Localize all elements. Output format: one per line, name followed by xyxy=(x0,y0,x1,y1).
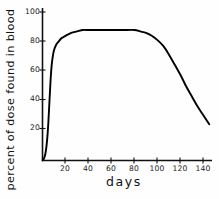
data-curve xyxy=(43,30,210,161)
chart-figure: percent of dose found in blood days 100 … xyxy=(0,0,219,199)
plot-area xyxy=(0,0,219,199)
